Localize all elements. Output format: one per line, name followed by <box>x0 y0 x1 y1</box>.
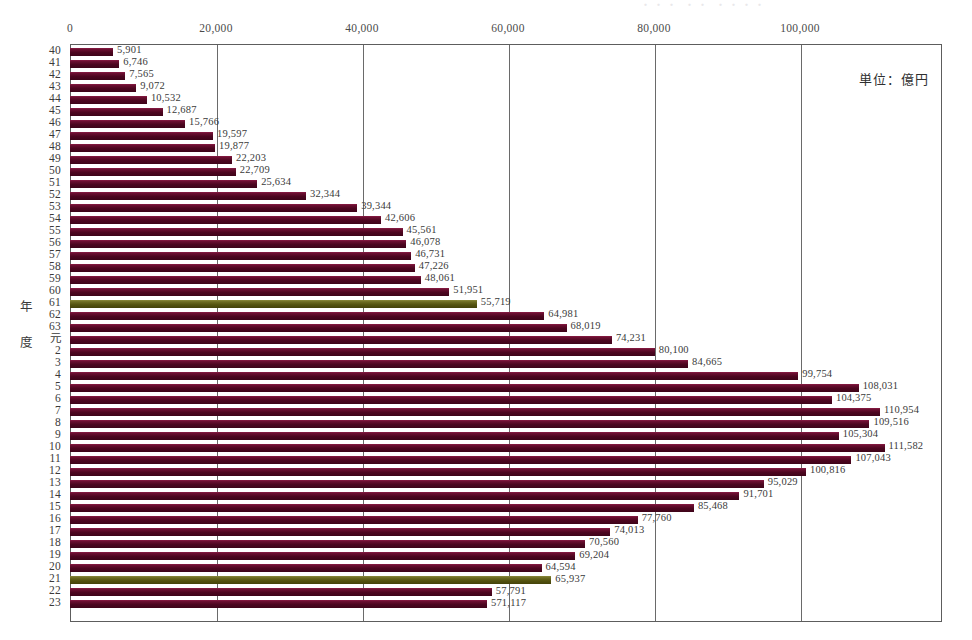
bar <box>70 372 798 380</box>
bar <box>70 156 232 164</box>
y-axis-label: 50 <box>49 165 61 176</box>
x-tick-label: 20,000 <box>199 22 232 34</box>
bar-value-label: 571,117 <box>491 597 526 608</box>
bar-value-label: 91,701 <box>743 488 773 499</box>
y-axis-label: 47 <box>49 129 61 140</box>
y-axis-label: 57 <box>49 249 61 260</box>
bar-row: 109,516 <box>70 419 972 431</box>
y-axis-label: 54 <box>49 213 61 224</box>
bar-value-label: 45,561 <box>407 224 437 235</box>
y-axis-label: 15 <box>49 501 61 512</box>
bar <box>70 480 764 488</box>
bar-row: 19,877 <box>70 142 972 154</box>
bar <box>70 168 236 176</box>
y-axis-label: 7 <box>55 405 61 416</box>
bar-value-label: 74,231 <box>616 332 646 343</box>
y-axis-label: 46 <box>49 117 61 128</box>
y-axis-label: 10 <box>49 441 61 452</box>
bar <box>70 108 163 116</box>
bar-row: 85,468 <box>70 503 972 515</box>
bar <box>70 588 492 596</box>
y-axis-title-char: 度 <box>20 332 33 351</box>
bar-value-label: 22,709 <box>240 164 270 175</box>
bar-value-label: 25,634 <box>261 176 291 187</box>
y-axis-label: 41 <box>49 57 61 68</box>
y-axis-label: 45 <box>49 105 61 116</box>
bar-row: 110,954 <box>70 406 972 418</box>
bar <box>70 132 213 140</box>
bar-value-label: 46,078 <box>410 236 440 247</box>
bar-row: 84,665 <box>70 358 972 370</box>
x-tick-label: 0 <box>67 22 73 34</box>
bar-value-label: 51,951 <box>453 284 483 295</box>
cropped-title-remnant: ・・・ ・・ ・・・・ <box>640 0 960 8</box>
y-axis-label: 42 <box>49 69 61 80</box>
y-axis-label: 58 <box>49 261 61 272</box>
bar-value-label: 105,304 <box>843 428 879 439</box>
bar-value-label: 5,901 <box>117 44 142 55</box>
bar-row: 32,344 <box>70 190 972 202</box>
y-axis-label: 19 <box>49 549 61 560</box>
bar <box>70 240 406 248</box>
bar-value-label: 100,816 <box>810 464 846 475</box>
bar-row: 48,061 <box>70 274 972 286</box>
y-axis-label: 元 <box>50 333 61 344</box>
bar-value-label: 47,226 <box>419 260 449 271</box>
bar-row: 19,597 <box>70 130 972 142</box>
bar <box>70 360 688 368</box>
bar <box>70 552 575 560</box>
bar <box>70 600 487 608</box>
bar-row: 95,029 <box>70 479 972 491</box>
y-axis-label: 62 <box>49 309 61 320</box>
y-axis-label: 6 <box>55 393 61 404</box>
bar-row: 571,117 <box>70 599 972 611</box>
bars-layer: 5,9016,7467,5659,07210,53212,68715,76619… <box>70 44 942 622</box>
y-axis-label: 61 <box>49 297 61 308</box>
bar <box>70 60 119 68</box>
y-axis-label: 22 <box>49 585 61 596</box>
y-axis-label: 5 <box>55 381 61 392</box>
bar <box>70 288 449 296</box>
bar-value-label: 65,937 <box>555 573 585 584</box>
bar-value-label: 70,560 <box>589 536 619 547</box>
bar <box>70 228 403 236</box>
bar-value-label: 80,100 <box>659 344 689 355</box>
bar-value-label: 84,665 <box>692 356 722 367</box>
bar-value-label: 107,043 <box>855 452 891 463</box>
bar-value-label: 12,687 <box>167 104 197 115</box>
bar <box>70 48 113 56</box>
bar-row: 70,560 <box>70 539 972 551</box>
bar-row: 77,760 <box>70 515 972 527</box>
bar-value-label: 108,031 <box>863 380 899 391</box>
bar-row: 51,951 <box>70 286 972 298</box>
bar-value-label: 110,954 <box>884 404 919 415</box>
bar-value-label: 10,532 <box>151 92 181 103</box>
y-axis-label: 59 <box>49 273 61 284</box>
bar <box>70 300 477 308</box>
bar-row: 22,203 <box>70 154 972 166</box>
bar <box>70 276 421 284</box>
y-axis-label: 12 <box>49 465 61 476</box>
y-axis-label: 14 <box>49 489 61 500</box>
bar-value-label: 42,606 <box>385 212 415 223</box>
x-axis-tick-labels: 020,00040,00060,00080,000100,000 <box>0 22 972 38</box>
bar-value-label: 7,565 <box>129 68 154 79</box>
y-axis-label: 20 <box>49 561 61 572</box>
bar <box>70 192 306 200</box>
bar <box>70 264 415 272</box>
y-axis-label: 60 <box>49 285 61 296</box>
bar-row: 46,731 <box>70 250 972 262</box>
bar <box>70 324 567 332</box>
x-tick-label: 100,000 <box>780 22 819 34</box>
bar-row: 45,561 <box>70 226 972 238</box>
y-axis-label: 52 <box>49 189 61 200</box>
y-axis-label: 43 <box>49 81 61 92</box>
bar-row: 105,304 <box>70 431 972 443</box>
y-axis-label: 3 <box>55 357 61 368</box>
bar <box>70 504 694 512</box>
bar <box>70 420 869 428</box>
bar-row: 25,634 <box>70 178 972 190</box>
bar-row: 80,100 <box>70 346 972 358</box>
bar-value-label: 74,013 <box>614 524 644 535</box>
y-axis-label: 17 <box>49 525 61 536</box>
